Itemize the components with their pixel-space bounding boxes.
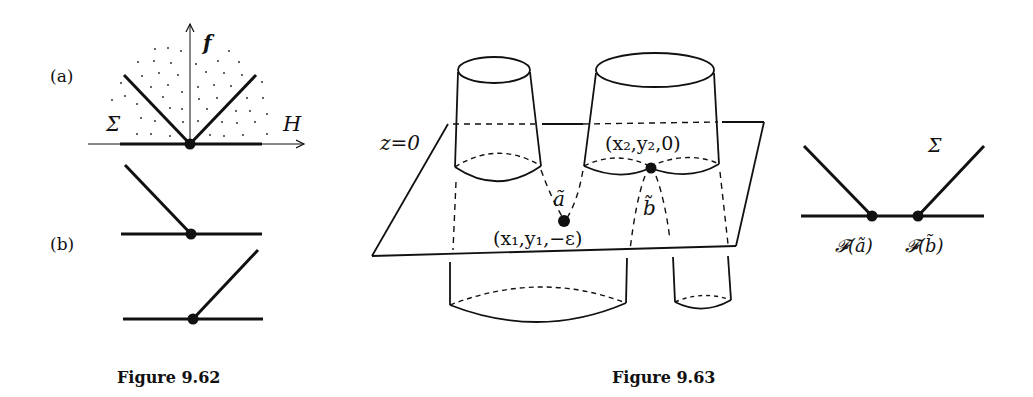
point-b-label: b̃ — [643, 194, 656, 220]
sigma-label: Σ — [105, 112, 121, 136]
h-axis-label: H — [282, 112, 302, 136]
upper-cylinder-left — [455, 57, 541, 181]
panel-b: (b) — [50, 165, 263, 325]
point-a-label: ã — [553, 187, 565, 211]
panel-b-label: (b) — [50, 234, 74, 254]
figure-9-63-caption: Figure 9.63 — [612, 368, 715, 387]
plane-label: z=0 — [379, 131, 420, 155]
figure-9-63-inset: Σ 𝓕(ã) 𝓕(b̃) — [801, 134, 984, 256]
bifurcation-point-lower — [188, 314, 199, 325]
figure-canvas: (a) — [0, 0, 1033, 397]
inset-point-b — [913, 211, 924, 222]
figure-9-63: z=0 — [372, 53, 764, 387]
panel-a: (a) — [50, 24, 304, 150]
figure-9-62: (a) — [50, 24, 304, 387]
origin-point — [185, 139, 196, 150]
lower-cylinder-left — [450, 258, 627, 322]
inset-right-point-label: 𝓕(b̃) — [905, 234, 944, 256]
bifurcation-point-upper — [186, 229, 197, 240]
inset-point-a — [867, 211, 878, 222]
inset-left-point-label: 𝓕(ã) — [835, 235, 873, 256]
point-b-coords: (x₂,y₂,0) — [605, 132, 681, 154]
lower-cylinder-right — [673, 256, 731, 309]
inset-sigma-label: Σ — [927, 134, 942, 156]
figure-9-62-caption: Figure 9.62 — [117, 368, 220, 387]
panel-a-label: (a) — [50, 66, 73, 86]
critical-point-a — [558, 215, 570, 227]
point-a-coords: (x₁,y₁,−ε) — [493, 227, 582, 249]
f-axis-label: f — [201, 31, 215, 55]
critical-point-b — [646, 163, 657, 174]
upper-cylinder-right — [584, 53, 719, 175]
